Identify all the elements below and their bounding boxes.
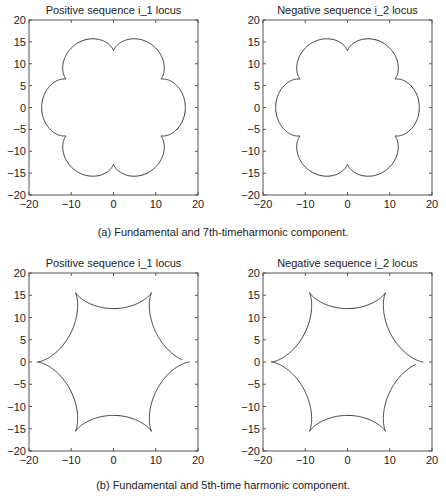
y-tick-label: −10 [7,401,26,413]
axes-box [29,273,198,451]
axes-box [263,20,432,195]
y-tick-label: −15 [241,423,260,435]
y-tick-label: 10 [248,312,260,324]
plot-title: Negative sequence i_2 locus [277,257,418,269]
x-tick-label: 10 [150,454,162,466]
x-tick-label: 20 [426,198,438,210]
y-tick-label: 20 [14,14,26,26]
figure: Positive sequence i_1 locus−20−1001020−2… [0,0,446,502]
x-tick-label: −10 [62,454,81,466]
x-tick-label: 20 [192,454,204,466]
y-tick-label: 20 [14,267,26,279]
y-tick-label: −5 [247,378,260,390]
y-tick-label: −15 [241,167,260,179]
x-tick-label: 20 [192,198,204,210]
y-tick-label: 20 [248,14,260,26]
y-tick-label: 0 [254,356,260,368]
plot-title: Positive sequence i_1 locus [46,257,182,269]
x-tick-label: 10 [384,454,396,466]
y-tick-label: −5 [13,123,26,135]
plot-title: Negative sequence i_2 locus [277,4,418,16]
x-tick-label: 0 [110,198,116,210]
y-tick-label: 15 [14,36,26,48]
plot-a-right: Negative sequence i_2 locus−20−1001020−2… [241,4,438,210]
y-tick-label: −5 [247,123,260,135]
plots-canvas: Positive sequence i_1 locus−20−1001020−2… [0,0,446,502]
axes-box [263,273,432,451]
y-tick-label: −20 [7,189,26,201]
caption-a: (a) Fundamental and 7th-timeharmonic com… [0,226,446,238]
y-tick-label: −10 [241,145,260,157]
y-tick-label: 5 [254,80,260,92]
x-tick-label: 0 [110,454,116,466]
plot-b-right: Negative sequence i_2 locus−20−1001020−2… [241,257,438,466]
locus-curve [37,293,189,432]
plot-title: Positive sequence i_1 locus [46,4,182,16]
x-tick-label: −10 [296,198,315,210]
y-tick-label: 0 [20,356,26,368]
y-tick-label: −15 [7,167,26,179]
y-tick-label: −15 [7,423,26,435]
x-tick-label: 0 [344,454,350,466]
locus-curve [276,39,420,176]
x-tick-label: −10 [296,454,315,466]
y-tick-label: 0 [254,102,260,114]
locus-curve [271,293,423,432]
y-tick-label: 5 [20,334,26,346]
y-tick-label: 20 [248,267,260,279]
x-tick-label: −10 [62,198,81,210]
y-tick-label: 5 [20,80,26,92]
y-tick-label: 10 [14,58,26,70]
locus-curve [42,39,186,176]
y-tick-label: 5 [254,334,260,346]
plot-b-left: Positive sequence i_1 locus−20−1001020−2… [7,257,204,466]
x-tick-label: 0 [344,198,350,210]
y-tick-label: 10 [248,58,260,70]
y-tick-label: −20 [241,189,260,201]
y-tick-label: −10 [7,145,26,157]
plot-a-left: Positive sequence i_1 locus−20−1001020−2… [7,4,204,210]
x-tick-label: 10 [384,198,396,210]
y-tick-label: 15 [248,289,260,301]
y-tick-label: −20 [7,445,26,457]
y-tick-label: 15 [14,289,26,301]
y-tick-label: −10 [241,401,260,413]
caption-b: (b) Fundamental and 5th-time harmonic co… [0,479,446,491]
x-tick-label: 10 [150,198,162,210]
y-tick-label: −5 [13,378,26,390]
y-tick-label: 10 [14,312,26,324]
x-tick-label: 20 [426,454,438,466]
y-tick-label: −20 [241,445,260,457]
y-tick-label: 0 [20,102,26,114]
axes-box [29,20,198,195]
y-tick-label: 15 [248,36,260,48]
